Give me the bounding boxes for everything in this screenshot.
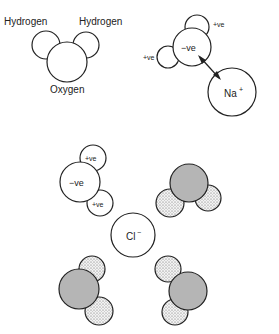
water-sodium-attraction	[157, 15, 256, 116]
negative-label: −ve	[69, 178, 84, 188]
oxygen-atom-shaded	[170, 164, 208, 202]
oxygen-label: Oxygen	[50, 84, 84, 95]
labeled-water-molecule	[32, 31, 99, 82]
oxygen-atom-shaded	[59, 269, 99, 309]
sodium-label: Na	[224, 88, 237, 99]
sodium-charge: +	[239, 86, 243, 93]
hydrogen-label-right: Hydrogen	[79, 16, 122, 27]
negative-label: −ve	[181, 43, 196, 53]
diagram-canvas: Hydrogen Hydrogen Oxygen +ve +ve −ve Na …	[0, 0, 279, 334]
hydrogen-label-left: Hydrogen	[4, 16, 47, 27]
oxygen-atom-shaded	[169, 272, 207, 310]
water-molecule-diagram: Hydrogen Hydrogen Oxygen +ve +ve −ve Na …	[0, 0, 279, 334]
chloride-label: Cl	[126, 231, 135, 242]
positive-label: +ve	[143, 54, 155, 61]
oxygen-atom	[47, 42, 87, 82]
positive-label: +ve	[85, 155, 97, 162]
positive-label: +ve	[92, 201, 104, 208]
chloride-charge: −	[137, 229, 141, 236]
positive-label: +ve	[213, 21, 225, 28]
